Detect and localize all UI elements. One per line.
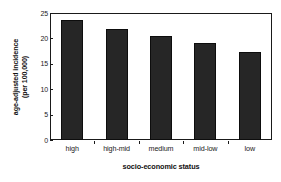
bar xyxy=(150,36,172,140)
x-axis-title: socio-economic status xyxy=(50,162,272,171)
y-axis-tick-mark xyxy=(50,115,53,116)
bar xyxy=(106,29,128,140)
y-axis-tick-mark xyxy=(50,89,53,90)
y-axis-title-line-1: age-adjusted incidence xyxy=(12,38,20,114)
bar xyxy=(239,52,261,140)
y-axis-tick-mark xyxy=(50,140,53,141)
y-axis-title-line-2: (per 100,000) xyxy=(21,55,29,97)
bar xyxy=(61,20,83,140)
y-axis-tick-label: 20 xyxy=(32,35,48,42)
x-axis-tick-mark xyxy=(228,141,229,144)
bar xyxy=(194,43,216,140)
y-axis-tick-mark xyxy=(50,38,53,39)
x-axis-tick-mark xyxy=(94,141,95,144)
y-axis-tick-mark xyxy=(50,64,53,65)
bar-chart: age-adjusted incidence (per 100,000) 051… xyxy=(0,0,281,182)
y-axis-tick-label: 25 xyxy=(32,10,48,17)
x-axis-tick-label: mid-low xyxy=(183,145,227,153)
x-axis-tick-label: high-mid xyxy=(94,145,138,153)
y-axis-tick-label: 10 xyxy=(32,86,48,93)
y-axis-tick-mark xyxy=(50,13,53,14)
bars-group xyxy=(50,13,272,140)
y-axis-tick-label: 5 xyxy=(32,111,48,118)
x-axis-tick-mark xyxy=(139,141,140,144)
y-axis-tick-label: 0 xyxy=(32,137,48,144)
x-axis-tick-label: low xyxy=(228,145,272,153)
x-axis-tick-label: medium xyxy=(139,145,183,153)
x-axis-tick-label: high xyxy=(50,145,94,153)
y-axis-tick-label: 15 xyxy=(32,60,48,67)
y-axis-tick-labels: 0510152025 xyxy=(30,0,48,182)
x-axis-tick-mark xyxy=(183,141,184,144)
